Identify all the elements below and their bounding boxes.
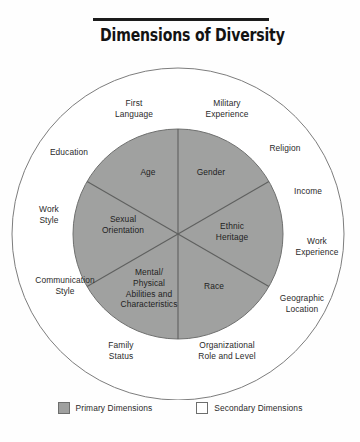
primary-dimension-gender: Gender bbox=[182, 167, 240, 178]
secondary-dimension-family-status: Family Status bbox=[94, 340, 148, 362]
primary-dimension-race: Race bbox=[187, 281, 241, 292]
legend-swatch-primary bbox=[58, 402, 70, 414]
legend-item-primary: Primary Dimensions bbox=[58, 402, 153, 414]
legend-swatch-secondary bbox=[196, 402, 208, 414]
legend-label-secondary: Secondary Dimensions bbox=[214, 403, 302, 413]
legend-item-secondary: Secondary Dimensions bbox=[196, 402, 302, 414]
secondary-dimension-communication-style: Communication Style bbox=[25, 275, 105, 297]
secondary-dimension-religion: Religion bbox=[258, 143, 312, 154]
diversity-wheel-diagram: Age Gender Ethnic Heritage Race Mental/ … bbox=[0, 0, 360, 400]
legend-label-primary: Primary Dimensions bbox=[76, 403, 153, 413]
wheel-graphic bbox=[0, 0, 360, 400]
secondary-dimension-geographic-location: Geographic Location bbox=[267, 293, 337, 315]
primary-dimension-ethnic-heritage: Ethnic Heritage bbox=[203, 221, 261, 243]
secondary-dimension-work-style: Work Style bbox=[25, 204, 73, 226]
primary-dimension-age: Age bbox=[120, 167, 176, 178]
primary-dimension-mental-physical-abilities: Mental/ Physical Abilities and Character… bbox=[113, 267, 185, 310]
secondary-dimension-military-experience: Military Experience bbox=[196, 98, 258, 120]
primary-dimension-sexual-orientation: Sexual Orientation bbox=[91, 214, 155, 236]
secondary-dimension-organizational-role-and-level: Organizational Role and Level bbox=[186, 340, 268, 362]
secondary-dimension-first-language: First Language bbox=[105, 98, 163, 120]
secondary-dimension-work-experience: Work Experience bbox=[286, 236, 348, 258]
secondary-dimension-income: Income bbox=[283, 186, 333, 197]
secondary-dimension-education: Education bbox=[40, 147, 98, 158]
legend: Primary Dimensions Secondary Dimensions bbox=[0, 402, 360, 414]
